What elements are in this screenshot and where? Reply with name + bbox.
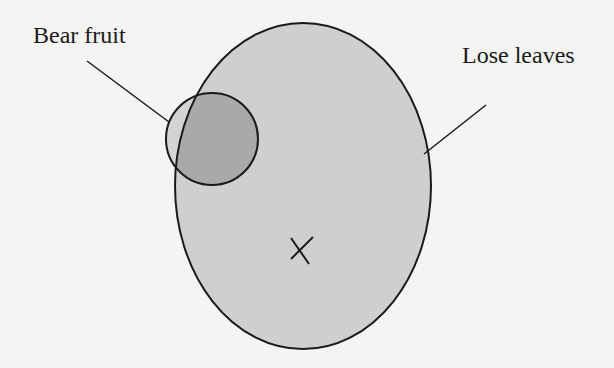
lose-leaves-leader-line [424, 105, 486, 154]
bear-fruit-leader-line [87, 61, 169, 122]
lose-leaves-label: Lose leaves [462, 42, 575, 69]
lose-leaves-ellipse [175, 23, 431, 349]
bear-fruit-label: Bear fruit [33, 22, 126, 49]
